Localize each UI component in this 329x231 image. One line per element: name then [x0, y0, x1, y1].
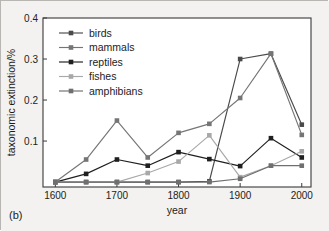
x-tick-label: 1900	[229, 190, 252, 201]
legend-marker-mammals	[69, 45, 74, 50]
legend-marker-fishes	[69, 74, 74, 79]
y-tick-label: 0.4	[24, 13, 38, 24]
legend-marker-reptiles	[69, 60, 74, 65]
data-point	[115, 118, 120, 123]
y-tick-label: 0.3	[24, 54, 38, 65]
x-tick-label: 2000	[291, 190, 314, 201]
panel-label: (b)	[9, 209, 22, 221]
data-point	[299, 133, 304, 138]
data-point	[115, 157, 120, 162]
legend-marker-amphibians	[69, 89, 74, 94]
data-point	[145, 163, 150, 168]
data-point	[299, 163, 304, 168]
extinction-line-chart: 16001700180019002000 0.10.20.30.4 birdsm…	[1, 1, 329, 231]
y-tick-label: 0.2	[24, 95, 38, 106]
data-point	[238, 57, 243, 62]
data-point	[207, 133, 212, 138]
y-axis-title: taxonomic extinction/%	[5, 49, 17, 156]
data-point	[299, 149, 304, 154]
data-point	[53, 180, 58, 185]
legend-label-mammals: mammals	[89, 41, 135, 53]
data-point	[115, 180, 120, 185]
data-point	[176, 159, 181, 164]
data-point	[269, 136, 274, 141]
data-point	[238, 96, 243, 101]
legend-marker-birds	[69, 31, 74, 36]
data-point	[238, 164, 243, 169]
data-point	[84, 172, 89, 177]
legend-label-birds: birds	[89, 27, 112, 39]
data-point	[269, 163, 274, 168]
data-point	[145, 180, 150, 185]
data-point	[238, 177, 243, 182]
data-point	[176, 131, 181, 136]
x-axis-title: year	[167, 204, 188, 216]
data-point	[269, 51, 274, 56]
data-point	[299, 122, 304, 127]
legend-label-amphibians: amphibians	[89, 85, 143, 97]
data-point	[84, 180, 89, 185]
data-point	[207, 180, 212, 185]
x-tick-label: 1800	[167, 190, 190, 201]
data-point	[207, 157, 212, 162]
data-point	[84, 157, 89, 162]
x-tick-label: 1600	[44, 190, 67, 201]
data-point	[299, 155, 304, 160]
x-tick-label: 1700	[106, 190, 129, 201]
y-tick-label: 0.1	[24, 136, 38, 147]
data-point	[145, 155, 150, 160]
data-point	[145, 171, 150, 176]
legend-label-fishes: fishes	[89, 70, 116, 82]
data-point	[207, 122, 212, 127]
legend-label-reptiles: reptiles	[89, 56, 123, 68]
data-point	[176, 150, 181, 155]
data-point	[176, 180, 181, 185]
